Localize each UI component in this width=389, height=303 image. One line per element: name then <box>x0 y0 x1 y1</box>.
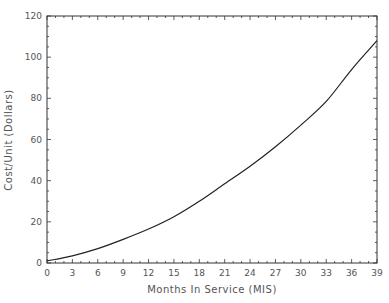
x-tick-label: 24 <box>244 268 256 278</box>
x-tick-label: 9 <box>120 268 126 278</box>
y-axis-label: Cost/Unit (Dollars) <box>3 89 14 190</box>
y-tick-label: 120 <box>25 11 42 21</box>
x-tick-label: 15 <box>168 268 179 278</box>
x-axis-label: Months In Service (MIS) <box>147 284 277 295</box>
y-tick-label: 40 <box>31 176 43 186</box>
x-tick-label: 39 <box>371 268 383 278</box>
x-tick-label: 12 <box>143 268 154 278</box>
y-tick-label: 0 <box>36 258 42 268</box>
x-tick-label: 18 <box>194 268 206 278</box>
y-tick-label: 60 <box>31 135 43 145</box>
x-tick-label: 36 <box>346 268 358 278</box>
x-tick-label: 27 <box>270 268 281 278</box>
y-tick-label: 80 <box>31 93 43 103</box>
plot-frame <box>47 16 377 263</box>
x-tick-label: 6 <box>95 268 101 278</box>
x-tick-label: 0 <box>44 268 50 278</box>
x-tick-label: 3 <box>70 268 76 278</box>
chart-svg: 036912151821242730333639 020406080100120… <box>0 0 389 303</box>
y-tick-label: 100 <box>25 52 42 62</box>
x-axis-ticks: 036912151821242730333639 <box>44 16 383 278</box>
y-tick-label: 20 <box>31 217 43 227</box>
x-tick-label: 30 <box>295 268 307 278</box>
y-axis-ticks: 020406080100120 <box>25 11 377 268</box>
x-tick-label: 33 <box>321 268 332 278</box>
x-tick-label: 21 <box>219 268 230 278</box>
cost-curve <box>47 41 377 261</box>
